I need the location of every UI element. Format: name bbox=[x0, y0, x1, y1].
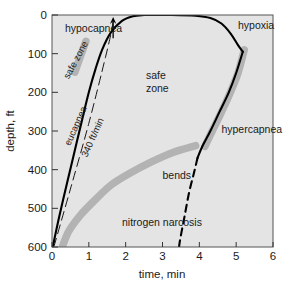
y-tick-label: 300 bbox=[28, 125, 47, 137]
annotation-nitrogen-narcosis: nitrogen narcosis bbox=[122, 216, 202, 228]
y-tick-label: 100 bbox=[28, 48, 47, 60]
x-tick-label: 2 bbox=[122, 250, 128, 262]
y-tick-label: 600 bbox=[28, 241, 47, 253]
x-axis-title: time, min bbox=[139, 268, 186, 280]
annotation-safe-zone-center-2: zone bbox=[146, 82, 169, 94]
annotation-safe-zone-center: safe bbox=[146, 69, 166, 81]
x-tick-label: 1 bbox=[86, 250, 92, 262]
y-tick-label: 0 bbox=[41, 9, 47, 21]
y-tick-label: 500 bbox=[28, 202, 47, 214]
chart-canvas: 01234560100200300400500600 hypocapneahyp… bbox=[0, 0, 288, 286]
x-tick-label: 6 bbox=[270, 250, 276, 262]
y-tick-label: 200 bbox=[28, 86, 47, 98]
y-tick-label: 400 bbox=[28, 164, 47, 176]
annotation-hypocapnea: hypocapnea bbox=[65, 22, 122, 34]
x-tick-label: 4 bbox=[196, 250, 203, 262]
annotation-hypoxia: hypoxia bbox=[238, 19, 274, 31]
y-axis-title: depth, ft bbox=[4, 109, 16, 151]
x-tick-label: 0 bbox=[49, 250, 55, 262]
annotation-bends: bends bbox=[163, 169, 192, 181]
annotation-hypercapnea: hypercapnea bbox=[221, 123, 282, 135]
x-tick-label: 5 bbox=[233, 250, 239, 262]
diving-physiology-chart: 01234560100200300400500600 hypocapneahyp… bbox=[0, 0, 288, 286]
x-tick-label: 3 bbox=[159, 250, 165, 262]
